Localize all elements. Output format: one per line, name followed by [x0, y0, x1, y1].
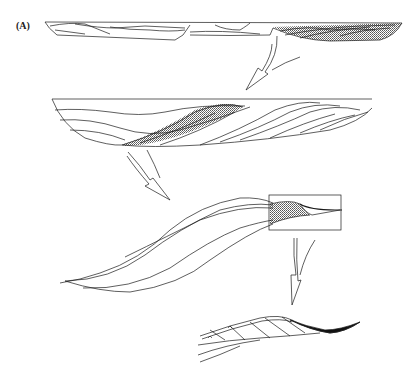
- stage-4-section: [198, 316, 360, 362]
- arrow-stage-3-to-4: [291, 238, 315, 305]
- arrow-stage-1-to-2: [246, 36, 300, 90]
- stage-2-section: [52, 99, 372, 147]
- stage-1-section: [45, 22, 402, 41]
- diagram-canvas: [0, 0, 413, 373]
- arrow-stage-2-to-3: [127, 150, 170, 200]
- stage-3-section: [60, 195, 342, 292]
